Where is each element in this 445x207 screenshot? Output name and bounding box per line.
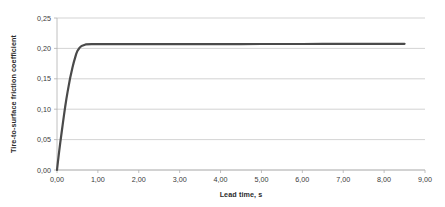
x-axis-title: Lead time, s (220, 190, 263, 199)
x-tick-label-3: 3,00 (173, 175, 187, 184)
x-tick-label-0: 0,00 (50, 175, 64, 184)
y-tick-label-1: 0,05 (37, 135, 51, 144)
y-tick-label-2: 0,10 (37, 105, 51, 114)
line-chart: 0,000,050,100,150,200,25 0,001,002,003,0… (0, 0, 445, 207)
x-tick-label-6: 6,00 (295, 175, 309, 184)
y-tick-label-4: 0,20 (37, 44, 51, 53)
x-tick-label-2: 2,00 (132, 175, 146, 184)
x-tick-label-5: 5,00 (254, 175, 268, 184)
x-tick-label-9: 9,00 (418, 175, 432, 184)
y-tick-label-0: 0,00 (37, 166, 51, 175)
y-axis-title: Tire-to-surface friction coefficient (9, 34, 18, 153)
x-tick-label-1: 1,00 (91, 175, 105, 184)
x-tick-label-8: 8,00 (377, 175, 391, 184)
x-tick-label-7: 7,00 (336, 175, 350, 184)
x-tick-label-4: 4,00 (214, 175, 228, 184)
y-tick-label-5: 0,25 (37, 14, 51, 23)
chart-container: 0,000,050,100,150,200,25 0,001,002,003,0… (0, 0, 445, 207)
y-tick-label-3: 0,15 (37, 74, 51, 83)
